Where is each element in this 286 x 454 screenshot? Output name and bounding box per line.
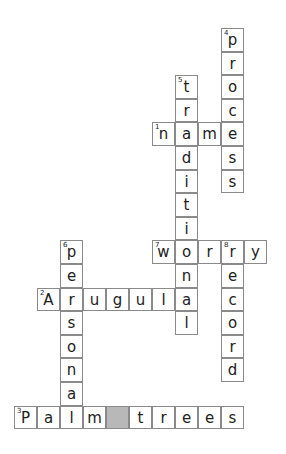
- crossword-cell[interactable]: r: [60, 288, 83, 312]
- cell-letter: a: [38, 407, 59, 429]
- crossword-cell[interactable]: a: [175, 288, 198, 312]
- cell-letter: i: [176, 171, 197, 193]
- cell-letter: d: [176, 147, 197, 169]
- cell-letter: l: [61, 407, 82, 429]
- cell-letter: r: [153, 407, 174, 429]
- cell-letter: i: [176, 218, 197, 240]
- cell-letter: d: [222, 359, 243, 381]
- clue-number: 4: [224, 30, 228, 37]
- crossword-cell[interactable]: n: [60, 358, 83, 382]
- crossword-cell[interactable]: o: [175, 240, 198, 264]
- crossword-cell[interactable]: l: [60, 406, 83, 430]
- cell-letter: r: [176, 100, 197, 122]
- crossword-cell[interactable]: r: [198, 240, 221, 264]
- crossword-cell[interactable]: m: [198, 122, 221, 146]
- blocked-cell: [106, 406, 129, 430]
- crossword-cell[interactable]: a: [175, 122, 198, 146]
- crossword-cell[interactable]: l: [152, 288, 175, 312]
- crossword-cell[interactable]: r: [175, 99, 198, 123]
- crossword-cell[interactable]: a: [60, 382, 83, 406]
- cell-letter: c: [222, 289, 243, 311]
- crossword-cell[interactable]: 7w: [152, 240, 175, 264]
- cell-letter: r: [199, 241, 220, 263]
- crossword-cell[interactable]: e: [221, 264, 244, 288]
- crossword-cell[interactable]: t: [129, 406, 152, 430]
- crossword-cell[interactable]: e: [198, 406, 221, 430]
- crossword-cell[interactable]: i: [175, 170, 198, 194]
- crossword-cell[interactable]: g: [106, 288, 129, 312]
- crossword-cell[interactable]: e: [175, 406, 198, 430]
- cell-letter: s: [222, 171, 243, 193]
- cell-letter: t: [130, 407, 151, 429]
- cell-letter: e: [176, 407, 197, 429]
- crossword-cell[interactable]: s: [221, 170, 244, 194]
- crossword-cell[interactable]: r: [221, 335, 244, 359]
- cell-letter: l: [176, 312, 197, 334]
- crossword-cell[interactable]: a: [37, 406, 60, 430]
- clue-number: 8: [224, 242, 228, 249]
- crossword-cell[interactable]: 4p: [221, 28, 244, 52]
- cell-letter: a: [176, 123, 197, 145]
- crossword-cell[interactable]: o: [221, 75, 244, 99]
- cell-letter: a: [176, 289, 197, 311]
- crossword-cell[interactable]: y: [244, 240, 267, 264]
- cell-letter: e: [222, 265, 243, 287]
- crossword-cell[interactable]: d: [175, 146, 198, 170]
- cell-letter: y: [245, 241, 266, 263]
- cell-letter: a: [61, 383, 82, 405]
- crossword-grid: 1name2Arugula3Palmtrees4procss5trditionl…: [0, 0, 286, 454]
- cell-letter: r: [222, 336, 243, 358]
- clue-number: 3: [17, 408, 21, 415]
- crossword-cell[interactable]: u: [129, 288, 152, 312]
- cell-letter: u: [130, 289, 151, 311]
- crossword-cell[interactable]: e: [60, 264, 83, 288]
- crossword-cell[interactable]: r: [152, 406, 175, 430]
- cell-letter: n: [176, 265, 197, 287]
- crossword-cell[interactable]: s: [60, 311, 83, 335]
- cell-letter: o: [222, 312, 243, 334]
- clue-number: 7: [155, 242, 159, 249]
- crossword-cell[interactable]: r: [221, 52, 244, 76]
- crossword-cell[interactable]: c: [221, 288, 244, 312]
- cell-letter: e: [199, 407, 220, 429]
- cell-letter: l: [153, 289, 174, 311]
- cell-letter: r: [61, 289, 82, 311]
- cell-letter: e: [61, 265, 82, 287]
- crossword-cell[interactable]: 6p: [60, 240, 83, 264]
- cell-letter: c: [222, 100, 243, 122]
- crossword-cell[interactable]: n: [175, 264, 198, 288]
- cell-letter: s: [61, 312, 82, 334]
- cell-letter: o: [61, 336, 82, 358]
- cell-letter: s: [222, 407, 243, 429]
- cell-letter: s: [222, 147, 243, 169]
- crossword-cell[interactable]: 8r: [221, 240, 244, 264]
- cell-letter: r: [222, 53, 243, 75]
- crossword-cell[interactable]: s: [221, 146, 244, 170]
- cell-letter: m: [84, 407, 105, 429]
- clue-number: 1: [155, 124, 159, 131]
- crossword-cell[interactable]: s: [221, 406, 244, 430]
- crossword-cell[interactable]: d: [221, 358, 244, 382]
- cell-letter: u: [84, 289, 105, 311]
- cell-letter: m: [199, 123, 220, 145]
- cell-letter: e: [222, 123, 243, 145]
- crossword-cell[interactable]: 2A: [37, 288, 60, 312]
- cell-letter: g: [107, 289, 128, 311]
- crossword-cell[interactable]: t: [175, 193, 198, 217]
- crossword-cell[interactable]: u: [83, 288, 106, 312]
- cell-letter: t: [176, 194, 197, 216]
- clue-number: 6: [63, 242, 67, 249]
- crossword-cell[interactable]: o: [221, 311, 244, 335]
- crossword-cell[interactable]: m: [83, 406, 106, 430]
- crossword-cell[interactable]: 5t: [175, 75, 198, 99]
- crossword-cell[interactable]: i: [175, 217, 198, 241]
- crossword-cell[interactable]: l: [175, 311, 198, 335]
- crossword-cell[interactable]: 1n: [152, 122, 175, 146]
- cell-letter: o: [222, 76, 243, 98]
- crossword-cell[interactable]: o: [60, 335, 83, 359]
- crossword-cell[interactable]: e: [221, 122, 244, 146]
- crossword-cell[interactable]: c: [221, 99, 244, 123]
- crossword-cell[interactable]: 3P: [14, 406, 37, 430]
- clue-number: 5: [178, 77, 182, 84]
- cell-letter: n: [61, 359, 82, 381]
